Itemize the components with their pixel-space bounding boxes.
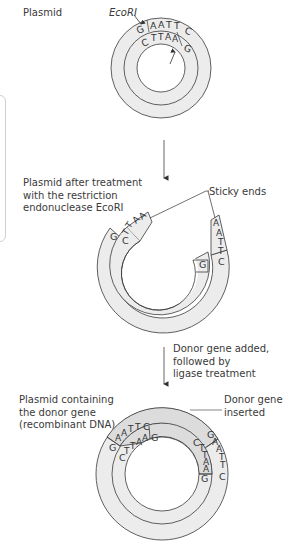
svg-text:A: A [142,433,149,443]
svg-text:C: C [218,256,225,267]
svg-text:G: G [201,473,208,484]
plasmid-cut: G C T T A A A A T T C G [97,191,229,333]
svg-text:C: C [143,421,150,432]
svg-text:T: T [123,446,130,456]
svg-text:A: A [172,34,179,44]
svg-text:T: T [127,424,134,434]
svg-text:G: G [110,231,117,242]
svg-text:G: G [109,442,116,453]
svg-text:T: T [219,460,226,470]
svg-text:A: A [165,32,172,42]
svg-text:A: A [121,428,128,438]
svg-text:A: A [150,20,157,31]
svg-text:T: T [165,19,172,30]
svg-text:A: A [158,19,165,30]
svg-text:T: T [217,246,224,256]
svg-text:T: T [134,422,141,432]
svg-text:A: A [213,218,220,228]
svg-text:T: T [150,33,157,43]
svg-text:T: T [129,441,136,451]
diagram-canvas: G A A T T C C T T A A G G C T T [0,0,288,545]
svg-text:T: T [157,32,164,42]
svg-text:G: G [199,259,206,270]
plasmid-recombinant: G A A T T C C T T A A G G A A T T C C T … [96,408,228,540]
svg-text:G: G [151,432,158,443]
svg-text:C: C [219,471,226,482]
svg-text:T: T [173,20,180,31]
plasmid-intact: G A A T T C C T T A A G [111,15,211,118]
